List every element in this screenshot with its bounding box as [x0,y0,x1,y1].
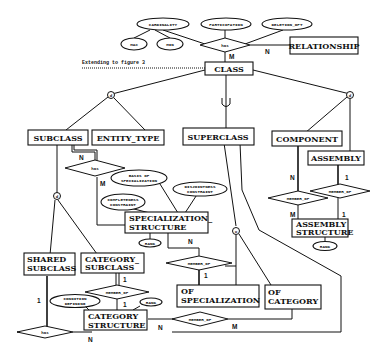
attribute-rank-category: RANK [140,298,162,306]
entity-entity-type: ENTITY_TYPE [92,130,164,145]
svg-text:COMPLETENESS: COMPLETENESS [108,197,139,202]
attribute-cardinality: CARDINALITY [137,18,189,30]
entity-relationship: RELATIONSHIP [288,37,359,54]
entity-category-structure-line2: STRUCTURE [88,320,145,330]
disjoint-circle-left: d [108,92,115,99]
svg-text:CLASS: CLASS [214,64,244,74]
relationship-member-of-spec: MEMBER_OF [166,256,232,270]
cardinality-shared-1: 1 [37,297,41,304]
cardinality-spec-n: N [188,238,193,245]
entity-assembly-structure-line2: STRUCTURE [296,227,353,237]
relationship-has-bottom: has [17,326,73,338]
svg-text:SUPERCLASS: SUPERCLASS [187,132,248,142]
cardinality-catstruct-1: 1 [123,301,127,308]
svg-text:MEMBER_OF: MEMBER_OF [189,318,212,322]
svg-text:RELATIONSHIP: RELATIONSHIP [288,41,359,51]
svg-text:MIN: MIN [166,42,174,47]
cardinality-has-spec-struct: M [100,180,105,187]
entity-component: COMPONENT [272,131,342,146]
entity-subclass: SUBCLASS [28,130,88,145]
svg-text:CARDINALITY: CARDINALITY [149,22,178,27]
svg-text:ASSEMBLY: ASSEMBLY [310,153,361,163]
svg-text:RANK: RANK [146,300,157,305]
cardinality-spec-1: 1 [204,272,208,279]
svg-text:SUBCLASS: SUBCLASS [33,133,82,143]
relationship-has-top: has [200,38,250,52]
attribute-max: MAX [121,38,147,50]
svg-text:MEMBER_OF: MEMBER_OF [287,197,310,201]
entity-shared-subclass-line2: SUBCLASS [27,263,76,273]
relationship-member-of-catstruct: MEMBER_OF [172,312,228,326]
attribute-basis-line2: SPECIALIZATION [121,178,158,183]
cardinality-comp-m: M [290,211,295,218]
note-extending: Extending to figure 3 [82,60,145,66]
cardinality-comp-n: N [290,174,295,181]
entity-of-specialization-line2: SPECIALIZATION [181,295,260,305]
cardinality-assembly-1: 1 [345,174,349,181]
svg-text:MEMBER_OF: MEMBER_OF [188,262,211,266]
er-diagram: CARDINALITY PARTICIPATION DELETION_OPT M… [0,0,385,360]
svg-text:ENTITY_TYPE: ENTITY_TYPE [97,133,160,143]
svg-text:RANK: RANK [145,241,156,246]
cardinality-bottom-n: N [88,336,93,343]
attribute-rank-assembly: RANK [313,242,337,251]
entity-superclass: SUPERCLASS [183,128,254,145]
svg-text:COMPONENT: COMPONENT [276,134,338,144]
attribute-completeness-line2: CONSTRAINT [110,202,136,207]
attribute-min: MIN [157,38,183,50]
attribute-disjointness-line2: CONSTRAINT [187,189,213,194]
disjoint-circle-shared: d [54,193,61,200]
attribute-participation: PARTICIPATION [201,18,251,30]
entity-class: CLASS [205,62,253,75]
svg-text:PARTICIPATION: PARTICIPATION [209,22,243,27]
cardinality-assembly-struct-1: 1 [342,211,346,218]
svg-text:has: has [41,331,49,335]
cardinality-has-class: M [229,53,234,60]
attribute-defining-condition-line2: DEFINING [65,301,86,306]
svg-text:MAX: MAX [130,42,138,47]
disjoint-circle-right: d [347,92,354,99]
entity-assembly: ASSEMBLY [308,151,364,165]
cardinality-has-rel: N [265,48,270,55]
svg-text:MEMBER_OF: MEMBER_OF [106,291,129,295]
cardinality-catstruct-n: N [158,324,163,331]
entity-category-subclass-line2: SUBCLASS [85,262,134,272]
svg-text:BASIS OF: BASIS OF [129,173,150,178]
svg-text:MEMBER_OF: MEMBER_OF [329,190,352,194]
svg-text:has: has [221,44,229,48]
svg-text:RANK: RANK [320,244,331,249]
entity-specialization-structure-line2: STRUCTURE [129,222,186,232]
entity-of-category-line2: CATEGORY [268,296,318,306]
attribute-rank-spec: RANK [139,239,161,247]
svg-text:has: has [91,167,99,171]
overlap-circle-super: o [233,228,240,235]
cardinality-has-spec-subclass: N [79,154,84,161]
cardinality-catsub-1: 1 [123,276,127,283]
attribute-deletion-opt: DELETION_OPT [262,18,312,30]
svg-text:DELETION_OPT: DELETION_OPT [272,22,303,27]
cardinality-catstruct-m: M [232,323,237,330]
